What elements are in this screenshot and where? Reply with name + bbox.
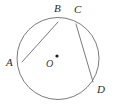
center-point-dot	[55, 54, 58, 57]
point-label-c: C	[74, 4, 81, 15]
center-label-o: O	[46, 59, 53, 69]
point-label-b: B	[54, 3, 61, 14]
point-label-d: D	[97, 84, 105, 95]
point-label-a: A	[6, 57, 13, 68]
main-circle	[17, 18, 99, 100]
geometry-figure: A B C D O	[0, 0, 115, 110]
chord-ab	[22, 22, 58, 62]
